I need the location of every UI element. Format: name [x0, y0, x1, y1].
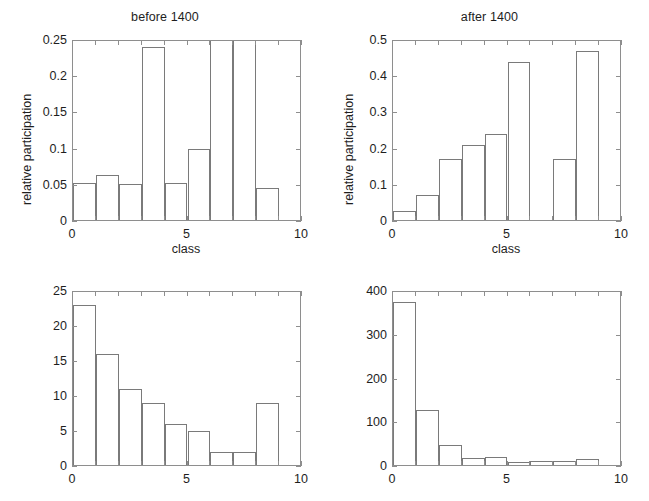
x-tick-mark-top — [529, 291, 530, 296]
bar — [96, 175, 119, 221]
x-tick-mark-top — [575, 40, 576, 45]
x-tick-mark-top — [95, 291, 96, 296]
x-tick-mark — [598, 216, 599, 221]
x-tick-label: 5 — [503, 472, 510, 486]
x-tick-label: 10 — [294, 227, 308, 241]
x-tick-mark-top — [118, 40, 119, 45]
y-tick-mark-right — [616, 185, 621, 186]
x-tick-mark — [484, 461, 485, 466]
x-tick-mark — [255, 461, 256, 466]
y-tick-label: 0.1 — [370, 178, 387, 192]
y-tick-mark — [72, 361, 77, 362]
bar-series — [73, 41, 300, 220]
x-tick-label: 10 — [614, 472, 628, 486]
y-tick-label: 0 — [60, 459, 67, 473]
x-axis-label: class — [492, 242, 520, 256]
y-tick-label: 0.4 — [370, 69, 387, 83]
y-tick-label: 0.5 — [370, 33, 387, 47]
x-tick-mark-top — [598, 291, 599, 296]
x-tick-mark-top — [164, 291, 165, 296]
y-tick-mark — [72, 112, 77, 113]
x-tick-mark — [164, 216, 165, 221]
y-tick-mark-right — [296, 361, 301, 362]
chart-panel-after-1400-relative: after 1400 relative participation 00.10.… — [330, 0, 649, 260]
chart-title: after 1400 — [330, 10, 649, 24]
x-tick-mark-top — [187, 40, 188, 45]
y-tick-label: 0 — [60, 214, 67, 228]
bar — [508, 62, 531, 221]
chart-panel-before-1400-counts: 05101520250510 — [0, 258, 330, 501]
chart-panel-after-1400-counts: 01002003004000510 — [330, 258, 649, 501]
y-tick-mark-right — [296, 76, 301, 77]
x-tick-label: 0 — [69, 472, 76, 486]
y-tick-label: 0.25 — [43, 33, 67, 47]
y-tick-label: 100 — [366, 415, 387, 429]
x-tick-label: 0 — [389, 227, 396, 241]
x-tick-mark-top — [301, 40, 302, 45]
x-tick-label: 0 — [69, 227, 76, 241]
bar — [439, 445, 462, 466]
x-tick-mark-top — [141, 40, 142, 45]
y-tick-mark-right — [616, 221, 621, 222]
x-tick-mark-top — [72, 40, 73, 45]
x-tick-mark-top — [255, 291, 256, 296]
bar — [96, 354, 119, 466]
x-axis-label: class — [172, 242, 200, 256]
x-tick-mark — [187, 461, 188, 466]
y-tick-mark — [392, 221, 397, 222]
plot-area — [72, 40, 301, 221]
bar — [119, 184, 142, 221]
y-tick-mark — [392, 149, 397, 150]
bar — [393, 211, 416, 221]
y-tick-mark — [72, 466, 77, 467]
x-tick-mark-top — [461, 291, 462, 296]
x-tick-label: 5 — [183, 227, 190, 241]
y-tick-mark-right — [296, 326, 301, 327]
x-tick-mark-top — [255, 40, 256, 45]
x-tick-mark-top — [95, 40, 96, 45]
x-tick-label: 10 — [294, 472, 308, 486]
x-tick-mark — [438, 461, 439, 466]
bar — [462, 458, 485, 466]
x-tick-mark-top — [415, 40, 416, 45]
y-tick-label: 0.05 — [43, 178, 67, 192]
figure-canvas: before 1400 relative participation 00.05… — [0, 0, 649, 501]
x-tick-mark — [529, 461, 530, 466]
y-tick-mark-right — [296, 149, 301, 150]
y-tick-mark — [72, 396, 77, 397]
y-tick-label: 0.2 — [50, 69, 67, 83]
x-tick-mark — [209, 461, 210, 466]
x-tick-mark — [278, 216, 279, 221]
bar — [233, 40, 256, 221]
x-tick-mark — [621, 216, 622, 221]
x-tick-mark-top — [187, 291, 188, 296]
bar — [165, 183, 188, 221]
y-tick-mark-right — [616, 335, 621, 336]
bar — [576, 459, 599, 466]
x-tick-mark — [141, 216, 142, 221]
bar-series — [73, 292, 300, 465]
bar — [439, 159, 462, 221]
x-tick-mark — [461, 216, 462, 221]
x-tick-mark-top — [392, 40, 393, 45]
x-tick-mark — [415, 461, 416, 466]
x-tick-mark — [575, 461, 576, 466]
x-tick-mark — [484, 216, 485, 221]
x-tick-mark — [552, 461, 553, 466]
bar — [73, 183, 96, 221]
bar — [416, 195, 439, 221]
plot-area — [72, 291, 301, 466]
x-tick-mark — [507, 461, 508, 466]
bar — [393, 302, 416, 466]
y-tick-mark — [72, 76, 77, 77]
y-tick-label: 200 — [366, 372, 387, 386]
x-tick-mark — [72, 461, 73, 466]
y-axis-label: relative participation — [342, 94, 356, 205]
x-tick-mark — [95, 216, 96, 221]
y-tick-label: 5 — [60, 424, 67, 438]
y-tick-label: 15 — [53, 354, 67, 368]
x-tick-mark — [278, 461, 279, 466]
y-tick-mark — [72, 326, 77, 327]
y-tick-mark — [392, 112, 397, 113]
y-tick-label: 300 — [366, 328, 387, 342]
